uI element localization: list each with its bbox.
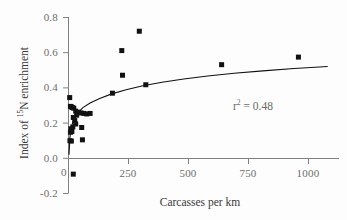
y-tick-label-3: 0.2 — [26, 117, 58, 129]
data-point — [296, 55, 301, 60]
y-tick-label-4: 0.0 — [26, 152, 58, 164]
data-point — [68, 130, 73, 135]
chart-figure: 0.8 0.6 0.4 0.2 0.0 -0.2 250 500 750 100… — [0, 0, 347, 220]
x-axis-title: Carcasses per km — [120, 196, 280, 208]
y-axis-title: Index of 15N enrichment — [16, 28, 30, 178]
data-point — [110, 91, 115, 96]
r-squared-suffix: = 0.48 — [241, 100, 273, 112]
x-tick-label-0: 0 — [61, 166, 67, 178]
x-tick-label-750: 750 — [228, 167, 268, 179]
data-point — [71, 172, 76, 177]
x-tick-label-250: 250 — [108, 167, 148, 179]
data-point — [137, 29, 142, 34]
data-point — [79, 125, 84, 130]
data-point — [80, 137, 85, 142]
y-tick-label-1: 0.6 — [26, 46, 58, 58]
y-axis-title-prefix: Index of — [18, 117, 30, 159]
x-axis-ticks — [69, 159, 309, 165]
y-axis-title-suffix: N enrichment — [18, 47, 30, 110]
data-series — [67, 29, 328, 177]
y-tick-label-5: -0.2 — [22, 187, 58, 199]
data-point — [67, 95, 72, 100]
r-squared-annotation: r2 = 0.48 — [233, 98, 273, 112]
y-axis-title-superscript: 15 — [16, 110, 25, 118]
x-tick-label-500: 500 — [168, 167, 208, 179]
y-tick-label-0: 0.8 — [26, 11, 58, 23]
y-tick-label-2: 0.4 — [26, 81, 58, 93]
data-point — [120, 73, 125, 78]
fit-curve — [69, 66, 328, 154]
data-point — [88, 111, 93, 116]
data-point — [69, 139, 74, 144]
data-point — [143, 82, 148, 87]
data-point — [119, 48, 124, 53]
data-point — [219, 62, 224, 67]
x-tick-label-1000: 1000 — [288, 167, 328, 179]
